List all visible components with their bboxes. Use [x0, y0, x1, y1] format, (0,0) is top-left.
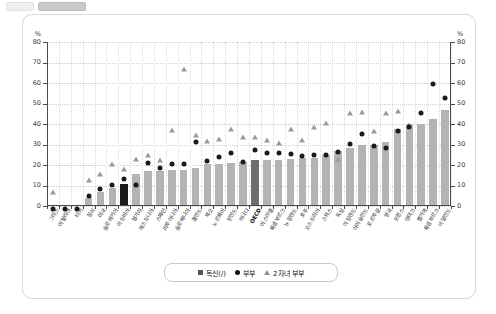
triangle-marker-라트비아 — [121, 166, 127, 171]
y-axis-tick-label: 80 — [19, 39, 41, 46]
bar-호주 — [299, 158, 307, 206]
circle-marker-아일랜드 — [348, 141, 353, 146]
bar-오스트리아 — [311, 158, 319, 206]
circle-marker-오스트리아 — [312, 153, 317, 158]
x-axis-label-터키: 터키 — [74, 207, 84, 219]
circle-marker-미국 — [98, 187, 103, 192]
triangle-marker-호주 — [299, 137, 305, 142]
y-axis-tick — [43, 42, 47, 43]
bar-슬로바키아 — [109, 188, 117, 206]
x-axis-label-스위스: 스위스 — [321, 207, 334, 223]
legend-label-couple: 부부 — [243, 268, 255, 278]
x-axis-label-핀란드: 핀란드 — [226, 207, 239, 223]
triangle-marker-스위스 — [323, 120, 329, 125]
triangle-marker-스페인 — [157, 158, 163, 163]
y-axis-tick — [43, 83, 47, 84]
y-axis-tick-label: 50 — [457, 100, 479, 107]
triangle-marker-독일 — [335, 157, 341, 162]
screenshot-root: % % 0010102020303040405050606070708080 그… — [0, 0, 496, 314]
y-axis-left — [47, 42, 48, 206]
triangle-marker-이스라엘 — [264, 137, 270, 142]
triangle-marker-체코 — [204, 138, 210, 143]
legend-item-couple: 부부 — [235, 268, 255, 278]
bar-아이슬란드 — [358, 145, 366, 207]
circle-marker-리투아니아 — [169, 162, 174, 167]
triangle-marker-폴란드 — [193, 132, 199, 137]
triangle-marker-뉴질랜드 — [288, 126, 294, 131]
y-axis-tick-label: 10 — [457, 182, 479, 189]
legend-item-single: 독신(/) — [198, 268, 226, 278]
bar-네덜란드 — [441, 110, 449, 206]
chart-legend: 독신(/) 부부 2자녀 부부 — [164, 263, 338, 282]
triangle-marker-캐나다 — [240, 134, 246, 139]
bar-룩셈부르크 — [429, 119, 437, 206]
bar-벨기에 — [417, 124, 425, 206]
circle-marker-체코 — [205, 159, 210, 164]
bar-아일랜드 — [346, 148, 354, 206]
bar-미국 — [97, 192, 105, 206]
y-axis-tick — [451, 145, 455, 146]
circle-marker-이스라엘 — [264, 151, 269, 156]
x-axis-label-덴마크: 덴마크 — [404, 207, 417, 223]
triangle-marker-헝가리 — [133, 157, 139, 162]
y-axis-tick — [451, 63, 455, 64]
x-axis-label-미국: 미국 — [97, 207, 107, 219]
triangle-marker-슬로베니아 — [181, 67, 187, 72]
y-axis-tick — [451, 83, 455, 84]
y-axis-tick — [43, 145, 47, 146]
y-axis-tick-label: 70 — [457, 59, 479, 66]
y-axis-right-unit: % — [457, 30, 479, 38]
triangle-marker-슬로바키아 — [109, 161, 115, 166]
x-axis-labels: 그리스이탈리아터키칠레미국슬로바키아라트비아헝가리에스토니아스페인리투아니아슬로… — [47, 207, 451, 255]
y-axis-tick — [43, 63, 47, 64]
square-marker-icon — [198, 270, 203, 275]
bar-포르투갈 — [370, 145, 378, 207]
bar-폴란드 — [192, 168, 200, 206]
circle-marker-영국 — [383, 146, 388, 151]
triangle-marker-프랑스 — [395, 109, 401, 114]
circle-marker-독일 — [336, 150, 341, 155]
bar-노르웨이 — [215, 164, 223, 206]
bar-영국 — [382, 142, 390, 206]
triangle-marker-OECD — [252, 134, 258, 139]
circle-marker-슬로바키아 — [110, 182, 115, 187]
y-axis-tick — [43, 104, 47, 105]
plot-area: % % 0010102020303040405050606070708080 — [47, 42, 451, 206]
legend-label-single: 독신(/) — [206, 268, 226, 278]
circle-marker-칠레 — [86, 194, 91, 199]
bar-덴마크 — [406, 124, 414, 206]
circle-marker-스위스 — [324, 153, 329, 158]
y-axis-tick-label: 0 — [457, 203, 479, 210]
top-chip-right — [38, 2, 86, 11]
top-chip-left — [6, 2, 34, 11]
bar-라트비아 — [120, 184, 128, 206]
circle-marker-노르웨이 — [217, 155, 222, 160]
circle-marker-에스토니아 — [146, 161, 151, 166]
bar-OECD — [251, 160, 259, 206]
circle-marker-네덜란드 — [443, 95, 448, 100]
circle-marker-뉴질랜드 — [288, 152, 293, 157]
y-axis-tick — [43, 186, 47, 187]
x-axis-label-체코: 체코 — [204, 207, 214, 219]
bar-캐나다 — [239, 162, 247, 206]
triangle-marker-icon — [264, 270, 270, 275]
circle-marker-아이슬란드 — [359, 131, 364, 136]
circle-marker-룩셈부르크 — [276, 151, 281, 156]
x-axis-label-영국: 영국 — [383, 207, 393, 219]
bar-스위스 — [322, 155, 330, 206]
triangle-marker-에스토니아 — [145, 153, 151, 158]
triangle-marker-리투아니아 — [169, 127, 175, 132]
y-axis-tick-label: 60 — [19, 80, 41, 87]
data-marks-layer — [47, 42, 451, 206]
triangle-marker-그리스 — [50, 190, 56, 195]
bar-핀란드 — [227, 163, 235, 206]
circle-marker-헝가리 — [134, 182, 139, 187]
circle-marker-프랑스 — [395, 128, 400, 133]
x-axis-label-프랑스: 프랑스 — [392, 207, 405, 223]
triangle-marker-미국 — [97, 171, 103, 176]
y-axis-tick-label: 30 — [19, 141, 41, 148]
bar-이스라엘 — [263, 160, 271, 206]
triangle-marker-포르투갈 — [371, 128, 377, 133]
y-axis-tick-label: 0 — [19, 203, 41, 210]
triangle-marker-영국 — [383, 111, 389, 116]
